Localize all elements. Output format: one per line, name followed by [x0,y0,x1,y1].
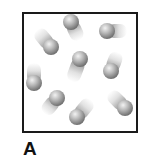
particle-sphere [26,75,42,91]
particle-sphere [49,90,65,106]
diagram-label: A [23,139,37,158]
particle-sphere [63,14,79,30]
particle-sphere [69,109,85,125]
particle-sphere [99,23,115,39]
particle-sphere [117,100,133,116]
particle-sphere [103,63,119,79]
particle-sphere [72,51,88,67]
particle-sphere [43,39,59,55]
